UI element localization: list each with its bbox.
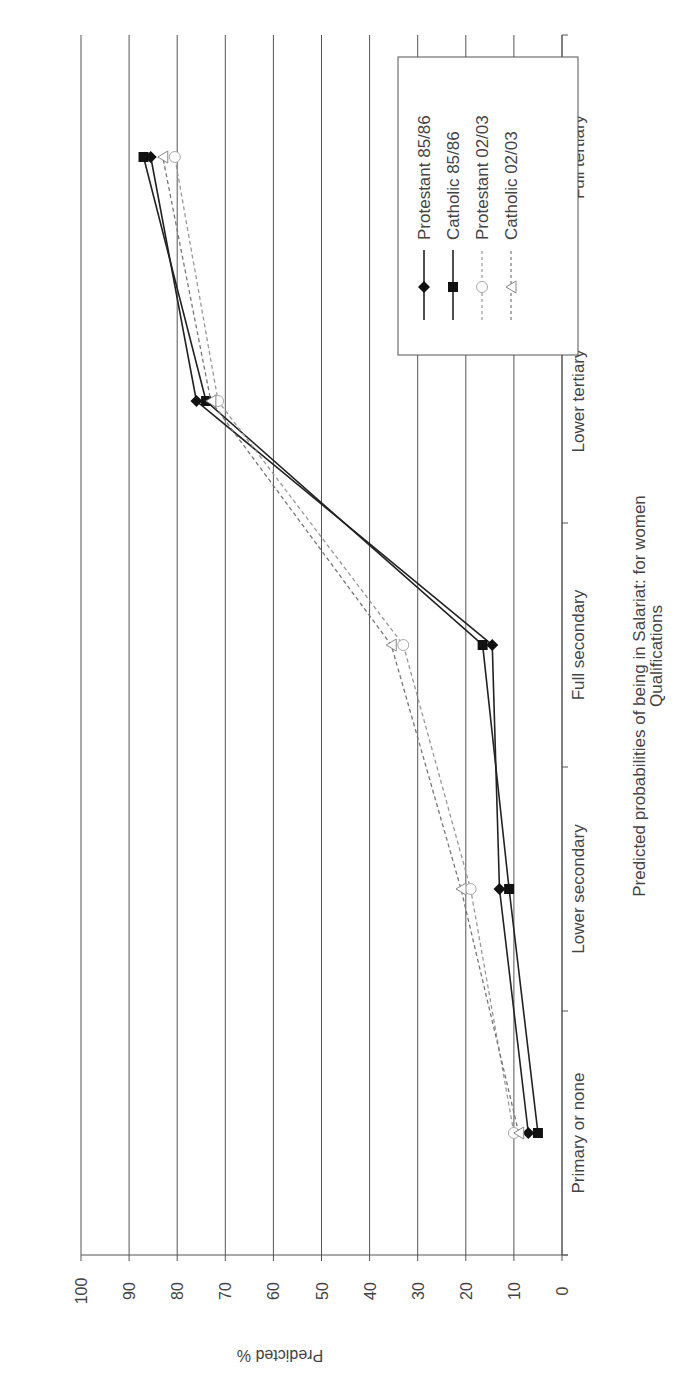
square-marker-icon [448, 282, 458, 292]
y-tick-label: 40 [362, 1282, 379, 1300]
x-tick-label: Lower tertiary [569, 349, 588, 452]
square-marker-icon [139, 152, 149, 162]
x-axis-label: Qualifications [647, 605, 666, 707]
triangle-marker-icon [456, 883, 466, 895]
legend: Protestant 85/86Catholic 85/86Protestant… [398, 57, 578, 355]
y-tick-label: 20 [458, 1282, 475, 1300]
y-tick-label: 80 [169, 1282, 186, 1300]
y-tick-label: 0 [554, 1286, 571, 1295]
legend-item-label: Catholic 85/86 [444, 131, 463, 240]
square-marker-icon [504, 884, 514, 894]
y-tick-label: 50 [314, 1282, 331, 1300]
y-tick-label: 30 [410, 1282, 427, 1300]
diamond-marker-icon [493, 883, 505, 895]
square-marker-icon [533, 1128, 543, 1138]
y-tick-label: 90 [121, 1282, 138, 1300]
line-chart: 0102030405060708090100Primary or noneLow… [0, 0, 696, 1393]
circle-marker-icon [169, 152, 180, 163]
y-tick-label: 60 [265, 1282, 282, 1300]
legend-item-label: Protestant 02/03 [473, 115, 492, 240]
x-tick-label: Primary or none [569, 1073, 588, 1194]
legend-item-label: Protestant 85/86 [415, 115, 434, 240]
circle-marker-icon [465, 884, 476, 895]
square-marker-icon [478, 640, 488, 650]
y-axis-label: Predicted % [237, 1347, 323, 1364]
chart-labels: Predicted probabilities of being in Sala… [237, 495, 666, 1364]
y-tick-label: 70 [217, 1282, 234, 1300]
x-tick-label: Full secondary [569, 589, 588, 700]
x-tick-label: Lower secondary [569, 824, 588, 954]
circle-marker-icon [477, 282, 488, 293]
circle-marker-icon [398, 640, 409, 651]
triangle-marker-icon [158, 151, 168, 163]
y-tick-label: 100 [73, 1278, 90, 1305]
y-tick-label: 10 [506, 1282, 523, 1300]
triangle-marker-icon [386, 639, 396, 651]
legend-item-label: Catholic 02/03 [502, 131, 521, 240]
